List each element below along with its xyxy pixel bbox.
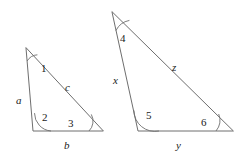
figure-canvas — [0, 0, 244, 161]
side-label-c: c — [65, 82, 70, 93]
side-label-a: a — [16, 95, 22, 106]
side-label-x: x — [113, 75, 118, 86]
angle-label-5: 5 — [146, 110, 152, 121]
side-label-y: y — [176, 140, 181, 151]
side-label-z: z — [172, 62, 176, 73]
angle-label-1: 1 — [41, 63, 47, 74]
angle-label-2: 2 — [42, 112, 48, 123]
geometry-figure: 1 a c 2 3 b 4 x z 5 6 y — [0, 0, 244, 161]
angle-label-6: 6 — [201, 117, 207, 128]
angle-label-4: 4 — [120, 33, 126, 44]
side-label-b: b — [64, 140, 70, 151]
angle-label-3: 3 — [68, 118, 74, 129]
